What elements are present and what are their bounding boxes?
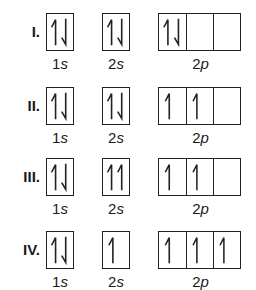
orbital-box-2p xyxy=(158,13,241,51)
spin-up-arrow-icon xyxy=(108,165,112,191)
subshell-label-1s: 1s xyxy=(46,200,74,217)
subshell-label-1s: 1s xyxy=(46,55,74,72)
spin-up-arrow-icon xyxy=(165,238,169,264)
orbital-cell xyxy=(103,232,129,268)
orbital-box-2s xyxy=(102,231,130,269)
orbital-box-2s xyxy=(102,158,130,196)
spin-down-arrow-icon xyxy=(174,19,178,45)
row-label: I. xyxy=(2,23,40,40)
orbital-box-1s xyxy=(46,231,74,269)
orbital-box-2p xyxy=(158,231,241,269)
orbital-cell xyxy=(103,14,129,50)
orbital-cell xyxy=(47,88,73,124)
orbital-cell xyxy=(47,159,73,195)
orbital-box-2p xyxy=(158,87,241,125)
orbital-cell xyxy=(186,232,213,268)
row-label: II. xyxy=(2,97,40,114)
spin-up-arrow-icon xyxy=(52,238,56,264)
orbital-box-1s xyxy=(46,87,74,125)
orbital-cell xyxy=(213,159,240,195)
orbital-cell xyxy=(103,159,129,195)
subshell-label-2p: 2p xyxy=(158,55,243,72)
subshell-label-2p: 2p xyxy=(158,200,243,217)
orbital-cell xyxy=(186,88,213,124)
subshell-label-2s: 2s xyxy=(102,55,130,72)
subshell-label-1s: 1s xyxy=(46,129,74,146)
spin-up-arrow-icon xyxy=(165,94,169,120)
spin-up-arrow-icon xyxy=(193,238,197,264)
orbital-cell xyxy=(213,232,240,268)
row-label: IV. xyxy=(2,241,40,258)
orbital-cell xyxy=(159,232,186,268)
spin-up-arrow-icon xyxy=(165,165,169,191)
orbital-cell xyxy=(47,232,73,268)
spin-up-arrow-icon xyxy=(164,20,168,46)
subshell-label-2p: 2p xyxy=(158,129,243,146)
spin-up-arrow-icon xyxy=(108,20,112,46)
orbital-cell xyxy=(159,159,186,195)
spin-up-arrow-icon xyxy=(193,165,197,191)
orbital-box-2s xyxy=(102,87,130,125)
spin-up-arrow-icon xyxy=(52,94,56,120)
orbital-box-2p xyxy=(158,158,241,196)
orbital-box-1s xyxy=(46,13,74,51)
orbital-cell xyxy=(159,88,186,124)
orbital-cell xyxy=(186,159,213,195)
spin-down-arrow-icon xyxy=(118,93,122,119)
spin-up-arrow-icon xyxy=(220,238,224,264)
spin-up-arrow-icon xyxy=(108,94,112,120)
orbital-cell xyxy=(47,14,73,50)
orbital-cell xyxy=(159,14,186,50)
subshell-label-2s: 2s xyxy=(102,129,130,146)
spin-up-arrow-icon xyxy=(193,94,197,120)
spin-up-arrow-icon xyxy=(52,165,56,191)
spin-up-arrow-icon xyxy=(109,238,113,264)
subshell-label-2s: 2s xyxy=(102,200,130,217)
orbital-box-1s xyxy=(46,158,74,196)
spin-up-arrow-icon xyxy=(52,20,56,46)
subshell-label-2s: 2s xyxy=(102,273,130,290)
orbital-cell xyxy=(186,14,213,50)
orbital-cell xyxy=(213,14,240,50)
spin-down-arrow-icon xyxy=(62,237,66,263)
subshell-label-1s: 1s xyxy=(46,273,74,290)
orbital-cell xyxy=(103,88,129,124)
spin-up-arrow-icon xyxy=(118,165,122,191)
orbital-cell xyxy=(213,88,240,124)
subshell-label-2p: 2p xyxy=(158,273,243,290)
spin-down-arrow-icon xyxy=(62,19,66,45)
spin-down-arrow-icon xyxy=(62,93,66,119)
orbital-box-2s xyxy=(102,13,130,51)
spin-down-arrow-icon xyxy=(118,19,122,45)
spin-down-arrow-icon xyxy=(62,164,66,190)
row-label: III. xyxy=(2,168,40,185)
